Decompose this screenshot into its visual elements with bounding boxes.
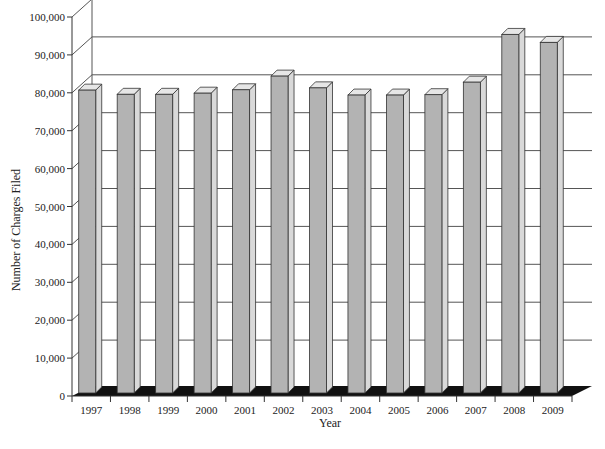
y-tick-label: 40,000 — [35, 238, 66, 250]
x-tick-label: 2009 — [542, 404, 565, 416]
bar-2002 — [271, 70, 294, 393]
y-axis-title: Number of Charges Filed — [9, 169, 23, 291]
x-tick-label: 2006 — [426, 404, 449, 416]
bar-chart: 010,00020,00030,00040,00050,00060,00070,… — [0, 0, 605, 449]
bar-2006 — [425, 89, 448, 393]
y-tick-label: 50,000 — [35, 201, 66, 213]
x-tick-label: 2007 — [465, 404, 488, 416]
bar-1999 — [156, 88, 179, 393]
bar-2008 — [502, 28, 525, 393]
y-axis: 010,00020,00030,00040,00050,00060,00070,… — [29, 11, 72, 402]
x-tick-label: 2001 — [234, 404, 256, 416]
y-tick-label: 60,000 — [35, 163, 66, 175]
x-tick-label: 1997 — [80, 404, 103, 416]
y-tick-label: 90,000 — [35, 49, 66, 61]
bar-2004 — [348, 89, 371, 393]
bar-2000 — [194, 87, 217, 393]
x-tick-label: 2005 — [388, 404, 411, 416]
x-tick-label: 2000 — [196, 404, 219, 416]
bar-1997 — [79, 84, 102, 393]
y-tick-label: 0 — [60, 390, 66, 402]
x-tick-label: 2003 — [311, 404, 334, 416]
y-tick-label: 80,000 — [35, 87, 66, 99]
x-tick-label: 1999 — [157, 404, 180, 416]
y-tick-label: 10,000 — [35, 352, 66, 364]
x-tick-label: 2008 — [503, 404, 526, 416]
y-tick-label: 100,000 — [29, 11, 65, 23]
y-tick-label: 30,000 — [35, 276, 66, 288]
y-tick-label: 70,000 — [35, 125, 66, 137]
bar-2005 — [386, 89, 409, 393]
x-tick-label: 2004 — [349, 404, 372, 416]
x-axis: 1997199819992000200120022003200420052006… — [72, 396, 572, 416]
x-axis-title: Year — [319, 416, 341, 430]
x-tick-label: 1998 — [119, 404, 142, 416]
bar-2007 — [463, 76, 486, 393]
bar-2001 — [233, 84, 256, 393]
y-tick-label: 20,000 — [35, 314, 66, 326]
bar-1998 — [117, 88, 140, 393]
x-tick-label: 2002 — [273, 404, 295, 416]
bar-2009 — [540, 36, 563, 393]
bars — [79, 28, 564, 393]
bar-2003 — [310, 82, 333, 393]
